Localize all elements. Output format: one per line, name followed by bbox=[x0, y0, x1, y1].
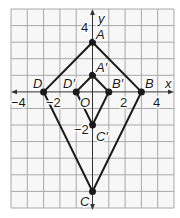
point-b bbox=[138, 88, 145, 95]
point-a bbox=[89, 39, 96, 46]
y-tick-4: 4 bbox=[81, 20, 88, 35]
label-a-prime: A′ bbox=[95, 60, 108, 75]
x-axis-label: x bbox=[164, 76, 172, 91]
x-tick-neg2: −2 bbox=[46, 95, 61, 110]
x-tick-neg4: −4 bbox=[11, 95, 26, 110]
point-a-prime bbox=[89, 72, 96, 79]
label-d: D bbox=[33, 76, 42, 91]
label-b-prime: B′ bbox=[112, 76, 124, 91]
point-c bbox=[89, 188, 96, 195]
coordinate-plane: y x 4 −2 −4 −2 2 4 O A B C D A′ B′ C′ D′ bbox=[0, 0, 180, 218]
x-tick-2: 2 bbox=[120, 95, 127, 110]
label-c: C bbox=[80, 194, 90, 209]
label-b: B bbox=[145, 76, 154, 91]
origin-label: O bbox=[80, 95, 90, 110]
y-tick-neg2: −2 bbox=[74, 122, 89, 137]
x-tick-4: 4 bbox=[153, 95, 160, 110]
label-d-prime: D′ bbox=[63, 76, 75, 91]
label-a: A bbox=[95, 27, 105, 42]
label-c-prime: C′ bbox=[96, 129, 108, 144]
point-c-prime bbox=[89, 122, 96, 129]
